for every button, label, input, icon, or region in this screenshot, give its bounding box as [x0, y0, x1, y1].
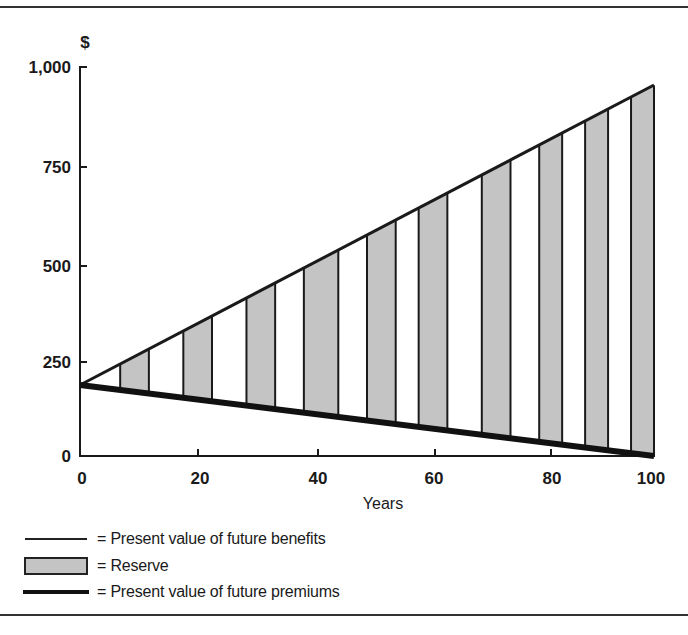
- legend-item-premiums: = Present value of future premiums: [22, 579, 340, 606]
- thick-line-swatch-icon: [22, 590, 90, 594]
- y-ticks: [80, 67, 87, 362]
- reserve-band: [539, 133, 562, 444]
- y-tick-label-250: 250: [43, 353, 71, 372]
- x-tick-label-80: 80: [543, 469, 562, 488]
- thin-line-swatch-icon: [22, 538, 90, 540]
- legend-item-reserve: = Reserve: [22, 553, 340, 580]
- legend-label: = Present value of future premiums: [97, 583, 340, 601]
- legend-item-benefits: = Present value of future benefits: [22, 526, 340, 553]
- y-tick-label-500: 500: [43, 257, 71, 276]
- x-tick-label-40: 40: [309, 469, 328, 488]
- x-tick-label-0: 0: [77, 469, 86, 488]
- reserve-band: [246, 283, 275, 409]
- reserve-band: [482, 160, 511, 438]
- legend-label: = Reserve: [97, 557, 169, 575]
- x-ticks: [198, 449, 551, 456]
- x-tick-label-20: 20: [191, 469, 210, 488]
- x-tick-label-60: 60: [425, 469, 444, 488]
- reserve-band: [585, 109, 608, 450]
- reserve-band: [367, 220, 396, 424]
- reserve-band: [631, 86, 654, 457]
- shaded-box-swatch-icon: [22, 557, 90, 575]
- y-tick-label-750: 750: [43, 158, 71, 177]
- y-tick-label-1000: 1,000: [28, 58, 71, 77]
- legend-label: = Present value of future benefits: [97, 530, 325, 548]
- y-tick-label-0: 0: [62, 447, 71, 466]
- y-unit-label: $: [80, 33, 90, 52]
- x-axis-title: Years: [363, 495, 403, 512]
- legend: = Present value of future benefits = Res…: [22, 526, 340, 606]
- x-tick-label-100: 100: [637, 469, 665, 488]
- reserve-band: [419, 193, 448, 430]
- chart-plot: 1,000 750 500 250 0 $ 0 20 40 60 80 100 …: [0, 0, 688, 520]
- reserve-band: [304, 250, 338, 417]
- frame-bottom-border: [0, 614, 688, 616]
